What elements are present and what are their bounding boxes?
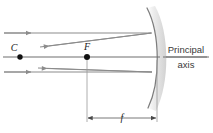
label-axis: axis	[178, 59, 195, 70]
label-principal: Principal	[168, 44, 204, 55]
label-focal-point: F	[83, 41, 91, 52]
label-center-of-curvature: C	[11, 42, 18, 53]
concave-mirror-ray-diagram: C F f Principal axis	[0, 0, 213, 133]
label-focal-length: f	[121, 112, 125, 123]
reflected-ray-lower	[38, 68, 152, 72]
center-of-curvature-point	[17, 54, 22, 59]
optics-diagram: C F f Principal axis	[0, 0, 213, 133]
reflected-ray-upper	[40, 33, 152, 47]
focal-point-marker	[84, 54, 90, 60]
